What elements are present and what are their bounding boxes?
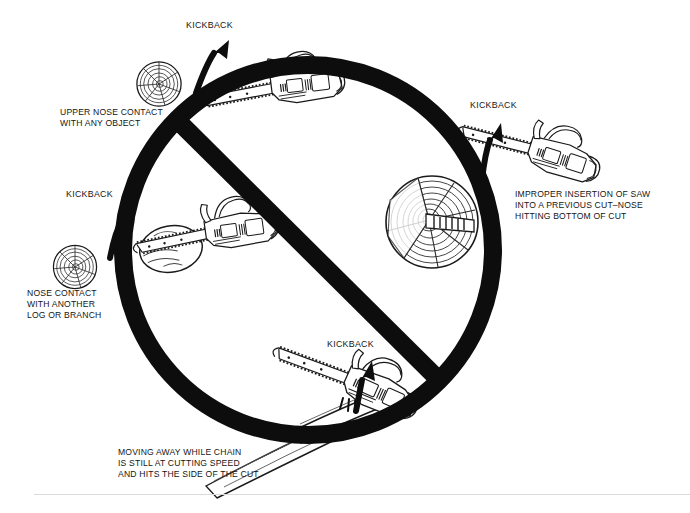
label-kickback-bottom: KICKBACK	[327, 339, 374, 350]
scene-nose-contact-log	[53, 191, 281, 289]
label-kickback-left: KICKBACK	[66, 189, 113, 200]
diagram-canvas: KICKBACK UPPER NOSE CONTACT WITH ANY OBJ…	[0, 0, 690, 513]
log-end-left	[53, 245, 96, 288]
log-end-upper	[137, 62, 181, 106]
label-upper-nose-contact: UPPER NOSE CONTACT WITH ANY OBJECT	[60, 107, 163, 129]
chainsaw-kickback-illustration	[0, 0, 690, 513]
log-cross-section	[386, 176, 478, 268]
label-improper-insertion: IMPROPER INSERTION OF SAW INTO A PREVIOU…	[515, 189, 650, 223]
footer-divider	[34, 494, 690, 495]
label-nose-contact-log: NOSE CONTACT WITH ANOTHER LOG OR BRANCH	[27, 288, 101, 322]
label-kickback-right: KICKBACK	[470, 100, 517, 111]
label-kickback-top: KICKBACK	[186, 20, 233, 31]
label-moving-away: MOVING AWAY WHILE CHAIN IS STILL AT CUTT…	[118, 447, 259, 481]
